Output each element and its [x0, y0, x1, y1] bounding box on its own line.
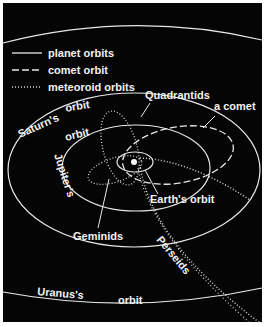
uranus-orbit-label: orbit	[118, 294, 143, 306]
orbit-diagram-svg: planet orbits comet orbit meteoroid orbi…	[0, 0, 266, 327]
jupiter-label: Jupiter's	[52, 152, 77, 199]
jupiter-orbit-label: orbit	[64, 125, 91, 143]
comet-pointer	[203, 116, 215, 128]
quadrantids-orbit	[94, 107, 147, 189]
comet-orbit	[118, 118, 238, 193]
legend-meteoroid-orbits: meteoroid orbits	[48, 81, 135, 93]
uranus-orbit-top-arc	[3, 26, 262, 43]
quadrantids-pointer	[141, 103, 150, 117]
geminids-label: Geminids	[73, 230, 123, 242]
sun	[131, 159, 137, 165]
geminids-orbit	[85, 150, 146, 190]
solar-system-orbits-diagram: planet orbits comet orbit meteoroid orbi…	[0, 0, 266, 327]
earth-orbit-label: Earth's orbit	[150, 193, 215, 205]
saturn-label: Saturn's	[16, 111, 61, 140]
legend-planet-orbits: planet orbits	[48, 47, 114, 59]
legend-comet-orbit: comet orbit	[48, 64, 108, 76]
geminids-pointer	[98, 179, 109, 228]
saturn-orbit-label: orbit	[64, 98, 90, 114]
comet-label: a comet	[214, 100, 256, 112]
quadrantids-label: Quadrantids	[145, 89, 210, 101]
